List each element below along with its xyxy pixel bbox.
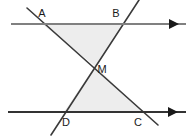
vertex-label-B: B bbox=[112, 7, 119, 19]
vertex-label-C: C bbox=[134, 116, 142, 128]
vertex-label-A: A bbox=[38, 7, 46, 19]
top-line-arrow-icon bbox=[169, 19, 179, 29]
vertex-label-D: D bbox=[62, 116, 70, 128]
transversal-line-BD bbox=[51, 0, 139, 135]
geometry-figure: A B M D C bbox=[0, 0, 194, 138]
bottom-line-arrow-icon bbox=[168, 107, 178, 117]
vertex-label-M: M bbox=[97, 63, 106, 75]
geometry-canvas: A B M D C bbox=[0, 0, 194, 138]
